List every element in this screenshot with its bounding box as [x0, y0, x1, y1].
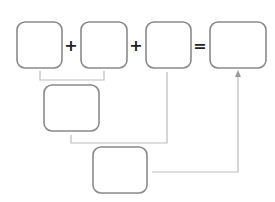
plus-operator-2: +: [129, 36, 142, 55]
box-partial-sum: [44, 85, 99, 131]
bracket-connector: [40, 71, 104, 80]
box-addend-2: [81, 22, 127, 68]
arrow-head-icon: [235, 70, 241, 77]
plus-operator-1: +: [64, 36, 77, 55]
connector-combined-to-sum: [152, 76, 238, 172]
box-addend-3: [146, 22, 191, 68]
box-combined: [93, 147, 147, 193]
equals-operator: =: [193, 36, 206, 55]
addition-diagram: + + =: [0, 0, 275, 202]
box-addend-1: [17, 22, 62, 68]
box-sum: [210, 22, 266, 68]
